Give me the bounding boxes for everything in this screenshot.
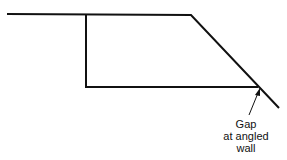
annotation-line-1: Gap bbox=[216, 118, 276, 130]
inner-box-outline bbox=[86, 15, 258, 87]
gap-annotation: Gap at angled wall bbox=[216, 118, 276, 154]
annotation-line-2: at angled bbox=[216, 130, 276, 142]
arrowhead-icon bbox=[255, 88, 260, 96]
top-wall-line bbox=[7, 14, 279, 108]
annotation-arrow-line bbox=[249, 93, 258, 115]
annotation-line-3: wall bbox=[216, 142, 276, 154]
